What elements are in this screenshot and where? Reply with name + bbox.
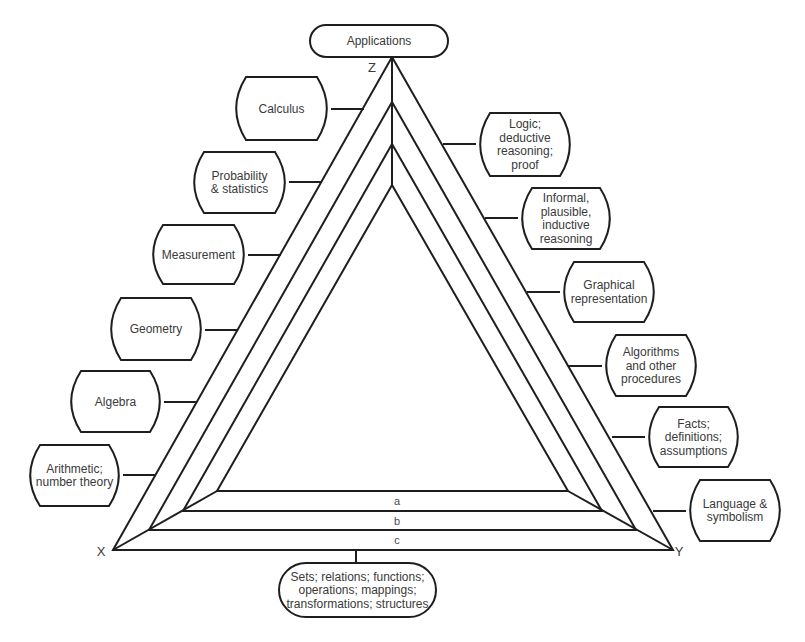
box-algorithms-procedures-label-line: procedures — [621, 372, 681, 386]
box-graphical-representation-label-line: Graphical — [583, 278, 634, 292]
box-arithmetic-number-theory: Arithmetic;number theory — [30, 445, 119, 506]
box-facts-definitions-label-line: assumptions — [660, 444, 727, 458]
box-facts-definitions: Facts;definitions;assumptions — [649, 407, 738, 467]
box-probability-statistics-label-line: & statistics — [211, 182, 268, 196]
vertex-label-z: Z — [368, 60, 376, 75]
box-informal-inductive-label-line: reasoning — [540, 232, 593, 246]
box-calculus: Calculus — [236, 77, 327, 140]
box-informal-inductive-label-line: inductive — [542, 218, 590, 232]
band-label-b: b — [394, 515, 400, 527]
box-language-symbolism-label-line: Language & — [703, 497, 768, 511]
box-geometry: Geometry — [111, 298, 201, 360]
topic-boxes: ApplicationsSets; relations; functions;o… — [30, 25, 780, 617]
box-language-symbolism: Language &symbolism — [690, 480, 780, 541]
box-logic-deductive-label-line: deductive — [499, 131, 551, 145]
box-logic-deductive-label-line: Logic; — [509, 117, 541, 131]
box-probability-statistics-label-line: Probability — [211, 169, 267, 183]
box-sets-relations-functions-label-line: transformations; structures — [286, 597, 428, 611]
box-arithmetic-number-theory-label-line: Arithmetic; — [46, 462, 103, 476]
box-algorithms-procedures-label-line: Algorithms — [623, 345, 680, 359]
box-arithmetic-number-theory-label-line: number theory — [36, 475, 113, 489]
box-algorithms-procedures-label-line: and other — [626, 359, 677, 373]
box-logic-deductive: Logic;deductivereasoning;proof — [480, 113, 570, 176]
box-logic-deductive-label-line: proof — [511, 158, 539, 172]
box-probability-statistics: Probability& statistics — [194, 152, 285, 213]
triangle-inner — [217, 185, 568, 491]
box-geometry-label-line: Geometry — [130, 322, 183, 336]
box-sets-relations-functions-label-line: operations; mappings; — [298, 583, 416, 597]
box-sets-relations-functions: Sets; relations; functions;operations; m… — [279, 563, 436, 617]
box-graphical-representation-label-line: representation — [571, 292, 648, 306]
box-language-symbolism-label-line: symbolism — [707, 510, 764, 524]
box-algorithms-procedures: Algorithmsand otherprocedures — [606, 335, 696, 396]
box-informal-inductive-label-line: plausible, — [541, 205, 592, 219]
math-structure-triangle-diagram: ApplicationsSets; relations; functions;o… — [0, 0, 805, 642]
band-label-a: a — [394, 495, 401, 507]
box-informal-inductive: Informal,plausible,inductivereasoning — [522, 188, 610, 249]
box-algebra-label-line: Algebra — [95, 395, 137, 409]
vertex-label-y: Y — [675, 544, 684, 559]
box-sets-relations-functions-label-line: Sets; relations; functions; — [290, 570, 424, 584]
box-informal-inductive-label-line: Informal, — [543, 191, 590, 205]
box-applications: Applications — [310, 25, 448, 57]
box-graphical-representation: Graphicalrepresentation — [564, 262, 654, 322]
vertex-label-x: X — [97, 544, 106, 559]
box-calculus-label-line: Calculus — [258, 102, 304, 116]
box-facts-definitions-label-line: Facts; — [677, 417, 710, 431]
box-algebra: Algebra — [71, 371, 160, 432]
band-label-c: c — [394, 534, 400, 546]
box-measurement: Measurement — [153, 225, 244, 284]
box-facts-definitions-label-line: definitions; — [665, 430, 722, 444]
box-applications-label-line: Applications — [347, 34, 412, 48]
box-measurement-label-line: Measurement — [162, 248, 236, 262]
box-logic-deductive-label-line: reasoning; — [497, 144, 553, 158]
